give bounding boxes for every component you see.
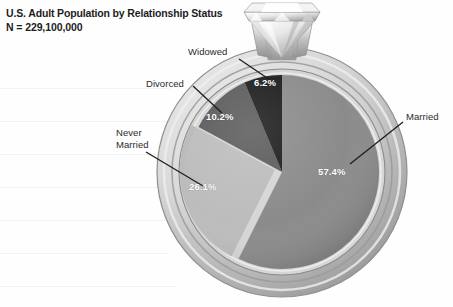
- callout-label-never-married-line1: Never: [116, 127, 149, 139]
- callout-label-never-married: Never Married: [116, 127, 149, 150]
- callout-label-divorced: Divorced: [146, 78, 184, 90]
- value-label-divorced: 10.2%: [206, 111, 233, 122]
- value-label-widowed: 6.2%: [254, 77, 276, 88]
- callout-label-married: Married: [406, 111, 439, 123]
- value-label-married: 57.4%: [318, 166, 345, 177]
- callout-label-widowed: Widowed: [188, 46, 227, 58]
- value-label-never-married: 26.1%: [189, 181, 216, 192]
- chart-screenshot: U.S. Adult Population by Relationship St…: [0, 0, 453, 307]
- callout-label-never-married-line2: Married: [116, 139, 149, 151]
